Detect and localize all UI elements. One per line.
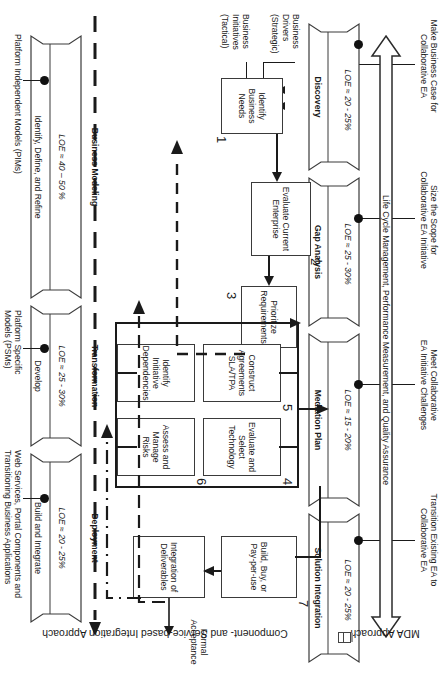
mda-leader-deployment xyxy=(23,498,41,499)
flow-2-to-3 xyxy=(259,256,279,292)
stage-name-solution: Solution Integration xyxy=(313,518,323,658)
mda-subtitle-deployment: Build and Integrate xyxy=(33,462,43,614)
feedback-loop-integration xyxy=(119,290,231,610)
activity-box-1[interactable]: Identify Business Needs xyxy=(221,78,283,134)
mda-name-business-modeling: Business Modeling xyxy=(90,60,100,274)
activity-box-7[interactable]: Build, Buy, or Pay-per-use xyxy=(221,536,297,598)
stage-loe-gap: LOE ≈ 25 - 30% xyxy=(343,194,353,314)
stage-dot-solution xyxy=(354,536,363,545)
flow-bus-to-7-top xyxy=(319,486,321,558)
goal-label-1: Make Business Case for Collaborative EA xyxy=(418,6,439,126)
lifecycle-arrow-label: Life Cycle Management, Performance Measu… xyxy=(381,140,391,540)
activity-label-1: Identify Business Needs xyxy=(237,89,268,124)
activity-box-2[interactable]: Evaluate Current Enterprise xyxy=(251,182,311,256)
flow-bus-to-7-v xyxy=(295,556,319,558)
goal-label-4: Transition Existing EA to Collaborative … xyxy=(418,470,439,610)
activity-label-2: Evaluate Current Enterprise xyxy=(271,187,291,252)
activity-label-4: Evaluate and Select Technology xyxy=(227,422,258,472)
stage-loe-mediation: LOE ≈ 15 - 20% xyxy=(343,352,353,488)
mda-subtitle-transformation: Develop xyxy=(33,314,43,438)
mda-name-deployment: Deployment xyxy=(90,462,100,614)
stage-loe-discovery: LOE ≈ 20 - 25% xyxy=(343,40,353,160)
mda-artifact-business-modeling: Platform Independent Models (PIMs) xyxy=(13,34,23,284)
stage-name-gap: Gap Analysis xyxy=(313,186,323,318)
stage-dot-gap xyxy=(354,214,363,223)
mda-dot-deployment xyxy=(40,494,49,503)
diagram-canvas: Make Business Case for Collaborative EA … xyxy=(0,0,447,673)
activity-label-7: Build, Buy, or Pay-per-use xyxy=(249,542,269,592)
mediation-bus-return xyxy=(115,322,117,488)
flow-bus-to-7-h xyxy=(297,408,299,488)
goal-label-2: Size the Scope for Collaborative EA Init… xyxy=(418,150,439,290)
stage-dot-discovery xyxy=(354,40,363,49)
input-label-drivers: Business Drivers (Strategic) xyxy=(270,14,301,74)
mda-dot-transformation xyxy=(40,344,49,353)
mda-loe-business-modeling: LOE ≈ 40 – 50 % xyxy=(57,60,67,274)
stage-dot-mediation xyxy=(354,380,363,389)
stage-name-discovery: Discovery xyxy=(313,32,323,162)
activity-number-4: 4 xyxy=(280,478,295,485)
activity-number-5: 5 xyxy=(280,404,295,411)
activity-number-7: 7 xyxy=(296,600,311,607)
stage-loe-solution: LOE ≈ 20 - 25% xyxy=(343,530,353,650)
flow-mediation-to-7 xyxy=(295,398,329,422)
mda-dot-business-modeling xyxy=(40,76,49,85)
mda-loe-transformation: LOE ≈ 25 - 30% xyxy=(57,314,67,438)
input-connector-a xyxy=(263,62,295,63)
mda-subtitle-business-modeling: Identify, Define, and Refine xyxy=(33,60,43,274)
mda-leader-transformation xyxy=(23,348,41,349)
mda-artifact-transformation: Platform Specific Models (PSMs) xyxy=(2,310,23,450)
flow-1-to-2 xyxy=(267,134,287,186)
activity-number-2: 2 xyxy=(308,258,323,265)
mda-loe-deployment: LOE ≈ 20 - 25% xyxy=(57,462,67,614)
mda-leader-business-modeling xyxy=(23,80,41,81)
mediation-bus-leg-5 xyxy=(279,372,299,374)
goal-label-3: Meet Collaborative EA Initiative Challen… xyxy=(418,320,439,450)
mda-name-transformation: Transformation xyxy=(90,314,100,438)
mda-artifact-deployment: Web Services, Portal Components and Tran… xyxy=(2,450,23,670)
output-label-acceptance: Formal Acceptance xyxy=(188,614,209,670)
